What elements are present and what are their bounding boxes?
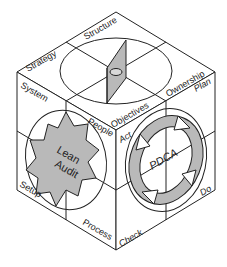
lean-audit-cube-diagram: Structure Strategy Ownership Objectives … xyxy=(0,0,227,267)
cube-svg: Structure Strategy Ownership Objectives … xyxy=(0,0,227,267)
